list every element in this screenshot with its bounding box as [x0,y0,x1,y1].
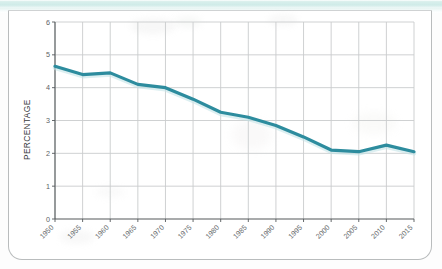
x-axis-tick-label: 2010 [369,223,387,241]
scanned-page: 0123456 19501955196019651970197519801985… [0,0,442,269]
y-axis-tick-label: 6 [46,18,50,27]
x-axis-tick-label: 2005 [342,223,360,241]
x-axis-tick-label: 1985 [231,223,249,241]
y-axis-tick-label: 0 [46,215,50,224]
x-axis-tick-label: 2015 [397,223,415,241]
y-axis-tick-label: 2 [46,149,50,158]
x-axis-tick-label: 1975 [176,223,194,241]
x-axis-tick-label: 1965 [121,223,139,241]
line-chart: 0123456 19501955196019651970197519801985… [8,10,432,260]
y-axis-tick-label: 3 [46,116,50,125]
grid-lines-horizontal [55,22,414,186]
y-axis-tick-label: 4 [46,83,50,92]
series-line-percentage [55,66,414,151]
y-axis-tick-label: 5 [46,50,50,59]
x-axis-tick-label: 1950 [38,223,56,241]
y-axis-title-text: PERCENTAGE [22,99,32,160]
x-axis-tick-label: 1970 [148,223,166,241]
x-axis-tick-label: 1980 [203,223,221,241]
y-axis-tick-labels: 0123456 [46,18,55,224]
x-axis-tick-labels: 1950195519601965197019751980198519901995… [38,219,415,241]
x-axis-tick-label: 1990 [259,223,277,241]
x-axis-tick-label: 1960 [93,223,111,241]
chart-canvas: 0123456 19501955196019651970197519801985… [8,10,432,260]
data-series-layer [55,66,414,153]
x-axis-tick-label: 2000 [314,223,332,241]
x-axis-tick-label: 1955 [65,223,83,241]
x-axis-tick-label: 1995 [286,223,304,241]
y-axis-title: PERCENTAGE [22,99,32,160]
series-line-shadow [55,68,414,153]
y-axis-tick-label: 1 [46,182,50,191]
